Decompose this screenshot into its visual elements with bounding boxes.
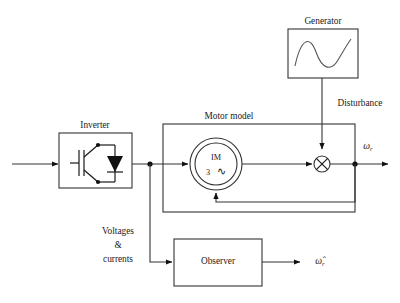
inverter-block[interactable]: Inverter: [59, 120, 132, 188]
omega-hat-subscript: r: [322, 260, 325, 267]
control-block-diagram: Inverter Motor model IM 3 ∿ Generato: [0, 0, 400, 303]
wire-tap-to-observer: [150, 164, 172, 262]
observer-label: Observer: [201, 256, 236, 266]
svg-text:ωr: ωr: [363, 140, 373, 152]
inverter-label: Inverter: [80, 120, 110, 130]
svg-text:ω̂r: ω̂r: [315, 255, 326, 267]
wire-observer-to-estimate: ω̂r: [262, 255, 326, 267]
speed-estimate-label: ω̂r: [315, 255, 326, 267]
wire-summer-to-output: ωr: [330, 140, 388, 166]
currents-line: currents: [103, 254, 133, 264]
voltages-currents-label: Voltages & currents: [102, 226, 134, 264]
induction-machine-symbol[interactable]: IM 3 ∿: [190, 138, 242, 190]
disturbance-label: Disturbance: [338, 98, 383, 108]
machine-phase-number: 3: [206, 168, 210, 177]
machine-label-three-phase: 3 ∿: [206, 165, 226, 177]
observer-block[interactable]: Observer: [174, 239, 262, 286]
generator-block[interactable]: Generator: [288, 16, 358, 78]
igbt-symbol: [70, 143, 123, 184]
diode-triangle: [107, 156, 123, 172]
speed-output-label: ωr: [363, 140, 373, 152]
junction-dot-top: [96, 143, 100, 147]
summing-junction[interactable]: [314, 156, 330, 172]
machine-ac-symbol: ∿: [217, 165, 226, 177]
machine-label-im: IM: [211, 153, 222, 162]
motor-model-block[interactable]: Motor model: [163, 111, 355, 212]
sine-wave-icon: [295, 39, 351, 67]
motor-model-label: Motor model: [205, 111, 254, 121]
wire-inverter-to-machine: [132, 161, 188, 166]
voltages-line: Voltages: [102, 226, 134, 236]
omega-r-subscript: r: [370, 145, 373, 152]
wire-generator-to-summer: Disturbance: [322, 78, 382, 149]
ampersand-line: &: [114, 240, 122, 250]
junction-dot-bottom: [96, 180, 100, 184]
generator-label: Generator: [304, 16, 342, 26]
block-diagram-canvas: Inverter Motor model IM 3 ∿ Generato: [0, 0, 400, 303]
wire-feedback-to-machine: [216, 164, 355, 202]
